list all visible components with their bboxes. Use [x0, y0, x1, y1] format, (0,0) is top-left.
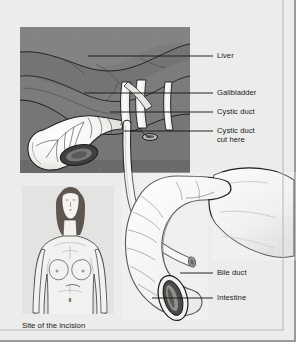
- label-cystic-duct: Cystic duct: [217, 107, 255, 116]
- label-gallbladder: Gallbladder: [217, 88, 256, 97]
- body-figure-panel: [22, 186, 114, 315]
- figure-frame: LiverGallbladderCystic ductCystic duct c…: [0, 0, 296, 342]
- label-liver: Liver: [217, 51, 234, 60]
- label-bile-duct: Bile duct: [217, 268, 247, 277]
- incision-caption: Site of the incision: [22, 321, 85, 330]
- label-intestine: Intestine: [217, 293, 246, 302]
- liver-group: [20, 27, 190, 173]
- anatomy-illustration: [0, 0, 296, 342]
- label-cystic-duct-cut: Cystic duct cut here: [217, 126, 255, 145]
